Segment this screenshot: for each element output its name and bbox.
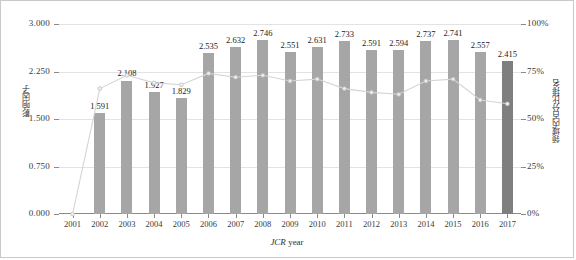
x-axis-tick [290, 214, 291, 218]
line-point [152, 81, 156, 85]
x-axis-tick [480, 214, 481, 218]
left-axis-tick-label: 0.750 [2, 162, 50, 171]
line-point [397, 92, 401, 96]
line-point [288, 79, 292, 83]
x-axis-tick [399, 214, 400, 218]
line-point [506, 102, 510, 106]
x-axis-title-rest: year [286, 237, 304, 247]
right-axis-title: 领域内百分比排名 [551, 79, 562, 143]
plot-area: 1.5912.1081.9271.8292.5352.6322.7462.551… [59, 24, 521, 214]
x-axis-tick [127, 214, 128, 218]
line-point [234, 75, 238, 79]
line-point [343, 87, 347, 91]
x-axis-tick [344, 214, 345, 218]
x-axis-tick [372, 214, 373, 218]
x-axis-tick-label: 2017 [491, 220, 523, 229]
line-point [451, 77, 455, 81]
line-point [478, 98, 482, 102]
x-axis-tick [507, 214, 508, 218]
line-points [71, 72, 510, 216]
x-axis-tick [453, 214, 454, 218]
x-axis-tick [181, 214, 182, 218]
line-point [98, 87, 102, 91]
line-path [73, 73, 508, 214]
right-axis-tick-label: 0% [527, 209, 571, 218]
line-series [59, 24, 521, 214]
left-axis-tick-label: 0.000 [2, 209, 50, 218]
right-axis-tick-label: 100% [527, 19, 571, 28]
right-axis-tick-label: 50% [527, 114, 571, 123]
x-axis-title: JCR year [1, 237, 573, 247]
right-axis-tick [521, 24, 526, 25]
right-axis-tick-label: 75% [527, 67, 571, 76]
line-point [315, 77, 319, 81]
x-axis-tick [100, 214, 101, 218]
x-axis-title-italic: JCR [270, 237, 286, 247]
line-point [370, 91, 374, 95]
x-axis-tick [263, 214, 264, 218]
line-point [207, 72, 211, 76]
right-axis-tick [521, 72, 526, 73]
x-axis-tick [236, 214, 237, 218]
right-axis-tick [521, 167, 526, 168]
left-axis-tick-label: 1.500 [2, 114, 50, 123]
x-axis-tick [317, 214, 318, 218]
right-axis-tick [521, 119, 526, 120]
right-axis-tick-label: 25% [527, 162, 571, 171]
x-axis-tick [426, 214, 427, 218]
line-point [261, 73, 265, 77]
x-axis-tick [154, 214, 155, 218]
left-axis-tick-label: 3.000 [2, 19, 50, 28]
line-point [424, 79, 428, 83]
left-axis-tick-label: 2.250 [2, 67, 50, 76]
line-point [71, 212, 75, 216]
line-point [179, 83, 183, 87]
x-axis-tick [208, 214, 209, 218]
left-axis-tick [54, 214, 59, 215]
line-point [125, 73, 129, 77]
right-axis-tick [521, 214, 526, 215]
chart-figure: 影响因子 领域内百分比排名 0.0000.7501.5002.2503.000 … [0, 0, 574, 258]
